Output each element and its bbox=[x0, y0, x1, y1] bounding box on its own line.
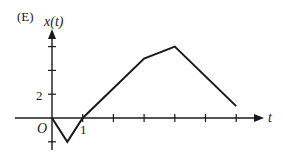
x-axis-label: t bbox=[268, 110, 273, 125]
x-tick-label-1: 1 bbox=[80, 122, 87, 137]
y-tick-label-2: 2 bbox=[36, 88, 43, 103]
origin-label: O bbox=[37, 121, 47, 136]
position-time-graph: (E) x(t) t O 1 2 bbox=[0, 0, 283, 158]
x-axis-arrow-icon bbox=[48, 29, 56, 39]
t-axis-arrow-icon bbox=[254, 114, 264, 122]
panel-label: (E) bbox=[17, 9, 34, 24]
y-axis-label: x(t) bbox=[43, 14, 64, 30]
